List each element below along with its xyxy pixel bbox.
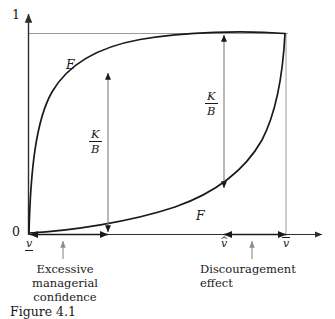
figure-caption: Figure 4.1 [10,306,210,319]
kb-left-numerator: K [89,128,102,140]
tick-label-v-overbar-text: v [283,237,289,250]
curve-label-E: E [66,58,75,72]
measure-label-kb-left: K B [89,128,102,157]
tick-label-v-hat: ^ v [220,238,228,250]
hat-accent-icon: ^ [220,235,228,245]
figure-caption-clip: Figure 4.1 [10,306,210,319]
figure-container: 1 0 E F v ^ v v K B K [0,0,335,319]
underbar-accent-icon [25,250,33,251]
callout-line: confidence [13,290,117,304]
callout-excessive-managerial-confidence: Excessive managerial confidence [13,262,117,304]
kb-right-numerator: K [205,90,218,102]
y-axis-top-label: 1 [12,8,20,22]
overbar-accent-icon [282,237,290,238]
kb-left-denominator: B [89,143,102,155]
curve-label-F: F [196,209,205,223]
tick-label-v-underbar-text: v [26,237,32,250]
origin-label: 0 [12,225,20,239]
callout-line: effect [200,276,310,290]
callout-line: managerial [13,276,117,290]
callout-discouragement-effect: Discouragement effect [200,262,310,290]
callout-line: Excessive [13,262,117,276]
tick-label-v-overbar: v [282,238,290,250]
callout-line: Discouragement [200,262,310,276]
kb-right-denominator: B [205,105,218,117]
tick-label-v-underbar: v [25,238,33,250]
measure-label-kb-right: K B [205,90,218,119]
